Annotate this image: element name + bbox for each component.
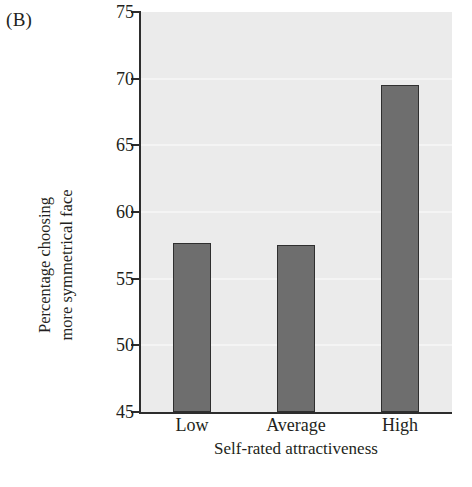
bar: [277, 245, 315, 412]
x-axis-tick-label: High: [382, 416, 418, 434]
y-axis-tick-label: 60: [116, 203, 134, 221]
x-axis-title: Self-rated attractiveness: [140, 440, 452, 457]
bar: [381, 85, 419, 412]
y-axis-title: Percentage choosing more symmetrical fac…: [33, 120, 79, 410]
panel-label: (B): [6, 10, 32, 29]
y-axis-tick-label: 65: [116, 136, 134, 154]
y-axis-title-line-2: more symmetrical face: [56, 189, 78, 340]
gridline: [140, 78, 452, 80]
plot-frame: 45505560657075 LowAverageHigh: [140, 12, 452, 412]
bar: [173, 243, 211, 412]
y-axis-tick-label: 55: [116, 269, 134, 287]
y-axis-tick-label: 70: [116, 69, 134, 87]
y-axis-title-line-1: Percentage choosing: [34, 197, 56, 333]
y-axis-tick-label: 45: [116, 403, 134, 421]
x-axis-tick-label: Low: [176, 416, 209, 434]
y-axis-tick-label: 50: [116, 336, 134, 354]
x-axis-tick-label: Average: [266, 416, 326, 434]
figure-panel-b: (B) Percentage choosing more symmetrical…: [0, 0, 472, 487]
plot-area: [140, 12, 452, 412]
x-axis-line: [139, 412, 452, 414]
y-axis-tick-label: 75: [116, 3, 134, 21]
